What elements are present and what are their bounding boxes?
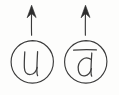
- spin-arrow-up-icon-right: [81, 5, 90, 35]
- particle-right: d: [0, 0, 107, 83]
- particle-label-left: [24, 52, 37, 76]
- particle-circle-left: [11, 41, 53, 84]
- quark-diagram: u d: [0, 0, 119, 95]
- antiparticle-overbar: [74, 50, 97, 51]
- spin-arrow-up-icon-left: [27, 5, 36, 35]
- figure-canvas: u d: [0, 0, 119, 95]
- particle-circle-right: [65, 41, 107, 84]
- particle-label-right: [78, 53, 92, 76]
- particle-left: u: [0, 0, 53, 83]
